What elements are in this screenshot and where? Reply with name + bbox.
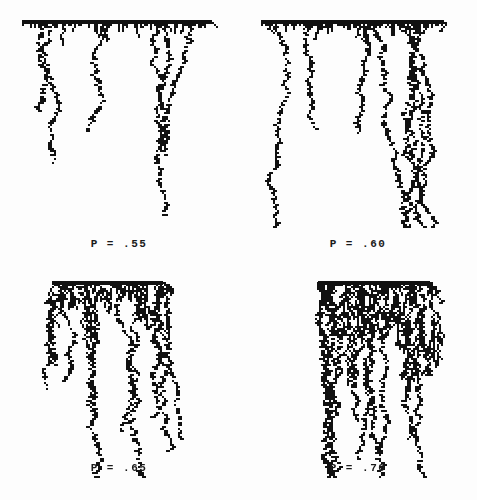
percolation-panel: P = .55 (0, 0, 238, 250)
percolation-cluster-canvas (0, 250, 238, 478)
panel-label: P = .70 (239, 462, 477, 474)
percolation-panel: P = .65 (0, 250, 238, 500)
percolation-panel: P = .60 (239, 0, 477, 250)
panel-label: P = .60 (239, 238, 477, 250)
panel-label: P = .55 (0, 238, 238, 250)
cluster-plot-area (239, 0, 477, 228)
panel-label: P = .65 (0, 462, 238, 474)
percolation-cluster-canvas (239, 250, 477, 478)
cluster-plot-area (0, 0, 238, 228)
cluster-plot-area (0, 250, 238, 478)
cluster-plot-area (239, 250, 477, 478)
percolation-figure: P = .55 P = .60 P = .65 P = .70 (0, 0, 477, 500)
percolation-cluster-canvas (0, 0, 238, 228)
percolation-panel: P = .70 (239, 250, 477, 500)
percolation-cluster-canvas (239, 0, 477, 228)
